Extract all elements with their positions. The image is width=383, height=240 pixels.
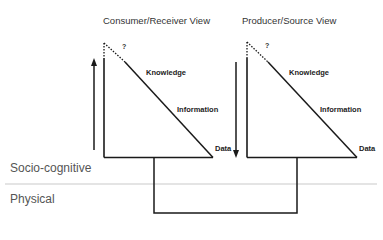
consumer-information-label: Information (177, 105, 218, 114)
producer-information-label: Information (320, 105, 361, 114)
producer-unknown-marker: ? (265, 42, 269, 49)
physical-layer-label: Physical (10, 192, 55, 206)
physical-connection-line (154, 158, 297, 214)
consumer-unknown-marker: ? (122, 43, 126, 50)
producer-knowledge-label: Knowledge (289, 68, 329, 77)
producer-triangle (247, 42, 357, 158)
consumer-triangle (104, 43, 213, 158)
consumer-data-label: Data (215, 144, 231, 153)
upward-arrow-icon (91, 58, 97, 150)
socio-cognitive-layer-label: Socio-cognitive (10, 161, 91, 175)
producer-data-label: Data (359, 144, 375, 153)
downward-arrow-icon (233, 62, 239, 158)
consumer-knowledge-label: Knowledge (146, 68, 186, 77)
